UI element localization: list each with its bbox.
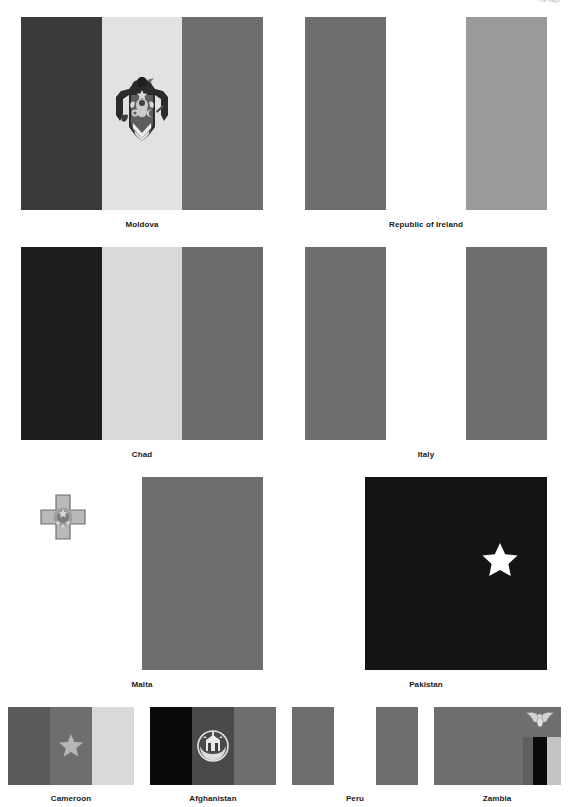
flag-row-1: Moldova Republic of Ireland: [0, 17, 568, 229]
crescent-and-star-icon: [413, 523, 523, 631]
flag-cell-peru[interactable]: Peru: [284, 707, 426, 803]
flag-image-afghanistan: [150, 707, 277, 785]
flag-caption: Cameroon: [51, 794, 91, 803]
flag-cell-chad[interactable]: Chad: [0, 247, 284, 459]
stripe-2: [142, 477, 263, 670]
stripe-1: [21, 17, 102, 210]
stripe-3: [92, 707, 134, 785]
flag-cell-moldova[interactable]: Moldova: [0, 17, 284, 229]
george-cross-icon: [39, 493, 87, 541]
flag-caption: Malta: [132, 680, 153, 689]
zambia-stripe-2: [533, 737, 547, 785]
flag-caption: Chad: [132, 450, 152, 459]
flag-caption: Zambia: [483, 794, 512, 803]
flag-cell-malta[interactable]: Malta: [0, 477, 284, 689]
stripe-2: [386, 17, 467, 210]
flag-row-3: Malta Pakistan: [0, 477, 568, 689]
stripe-1: [305, 477, 365, 670]
flag-grid: Moldova Republic of Ireland: [0, 0, 568, 803]
zambia-stripe-3: [547, 737, 561, 785]
flag-stripes: [21, 247, 263, 440]
flag-image-peru: [292, 707, 419, 785]
stripe-2: [386, 247, 467, 440]
flag-image-zambia: [434, 707, 561, 785]
flag-stripes: [305, 17, 547, 210]
flag-caption: Italy: [418, 450, 435, 459]
stripe-3: [234, 707, 276, 785]
flag-caption: Afghanistan: [189, 794, 236, 803]
flag-caption: Republic of Ireland: [389, 220, 463, 229]
afghanistan-emblem-icon: [194, 727, 232, 765]
flag-cell-zambia[interactable]: Zambia: [426, 707, 568, 803]
flag-cell-pakistan[interactable]: Pakistan: [284, 477, 568, 689]
stripe-1: [305, 17, 386, 210]
flag-caption: Moldova: [125, 220, 158, 229]
flag-image-italy: [305, 247, 547, 440]
flag-caption: Peru: [346, 794, 364, 803]
flag-row-2: Chad Italy: [0, 247, 568, 459]
flag-image-republic-of-ireland: [305, 17, 547, 210]
stripe-1: [150, 707, 192, 785]
stripe-1: [292, 707, 334, 785]
flag-stripes: [305, 247, 547, 440]
flag-image-moldova: [21, 17, 263, 210]
stripe-1: [21, 247, 102, 440]
stripe-1: [8, 707, 50, 785]
stripe-3: [466, 247, 547, 440]
flag-cell-afghanistan[interactable]: Afghanistan: [142, 707, 284, 803]
stripe-2: [102, 247, 183, 440]
flag-image-chad: [21, 247, 263, 440]
stripe-3: [182, 17, 263, 210]
moldova-coat-of-arms-icon: [111, 75, 173, 153]
stripe-3: [182, 247, 263, 440]
flag-cell-republic-of-ireland[interactable]: Republic of Ireland: [284, 17, 568, 229]
flag-image-pakistan: [305, 477, 547, 670]
star-icon: [58, 733, 84, 759]
stripe-3: [376, 707, 418, 785]
flag-cell-italy[interactable]: Italy: [284, 247, 568, 459]
flag-image-malta: [21, 477, 263, 670]
zambia-stripe-1: [523, 737, 533, 785]
flag-stripes: [292, 707, 419, 785]
eagle-icon: [523, 710, 557, 730]
flag-cell-cameroon[interactable]: Cameroon: [0, 707, 142, 803]
stripe-3: [466, 17, 547, 210]
stripe-2: [334, 707, 376, 785]
stripe-1: [305, 247, 386, 440]
flag-image-cameroon: [8, 707, 135, 785]
flag-row-4: Cameroon: [0, 707, 568, 803]
flag-caption: Pakistan: [409, 680, 443, 689]
